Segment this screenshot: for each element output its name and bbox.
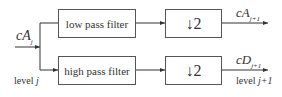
low-pass-filter-box: low pass filter: [58, 9, 136, 38]
input-label-sub: j: [31, 38, 33, 46]
downsample-top-label: ↓2: [186, 15, 202, 33]
approx-output-label: cAj+1: [236, 5, 260, 23]
output-level-label: level j+1: [236, 75, 272, 86]
low-pass-filter-label: low pass filter: [66, 18, 128, 30]
approx-output-main: cA: [236, 5, 250, 20]
detail-output-sub: j+1: [251, 62, 261, 70]
output-level-var: j+1: [258, 75, 273, 86]
approx-output-sub: j+1: [250, 15, 260, 23]
downsample-box-top: ↓2: [165, 9, 222, 38]
input-level-prefix: level: [14, 75, 33, 86]
input-label-main: cA: [16, 28, 31, 43]
high-pass-filter-label: high pass filter: [64, 65, 129, 77]
detail-output-main: cD: [236, 52, 251, 67]
output-level-prefix: level: [236, 75, 255, 86]
input-label: cAj: [16, 28, 33, 46]
input-level-var: j: [36, 75, 39, 86]
input-level-label: level j: [14, 75, 39, 86]
downsample-bottom-label: ↓2: [186, 62, 202, 80]
high-pass-filter-box: high pass filter: [58, 56, 136, 85]
detail-output-label: cDj+1: [236, 52, 261, 70]
downsample-box-bottom: ↓2: [165, 56, 222, 85]
